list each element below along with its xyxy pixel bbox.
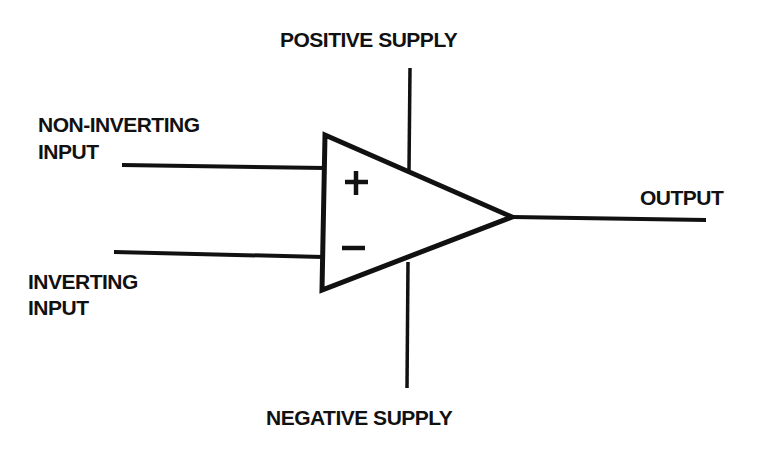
op-amp-diagram [0,0,772,455]
inverting-input-wire [114,252,323,257]
positive-supply-wire [409,68,410,170]
inverting-input-label-line1: INVERTING [28,270,138,294]
negative-supply-wire [407,262,408,388]
negative-supply-label: NEGATIVE SUPPLY [266,406,452,430]
non-inverting-input-label-line2: INPUT [38,140,99,164]
non-inverting-input-label-line1: NON-INVERTING [38,113,200,137]
op-amp-triangle [322,135,512,290]
output-wire [512,217,706,220]
non-inverting-input-wire [122,165,325,168]
inverting-input-label-line2: INPUT [28,296,89,320]
plus-sign-icon [345,171,368,195]
output-label: OUTPUT [640,186,723,210]
positive-supply-label: POSITIVE SUPPLY [280,28,457,52]
